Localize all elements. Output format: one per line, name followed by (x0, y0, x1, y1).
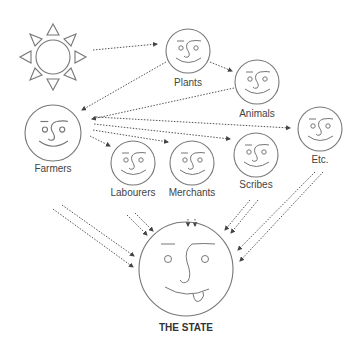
edge-labourers-state (127, 213, 153, 235)
node-labourers: Labourers (110, 141, 155, 198)
node-label: Farmers (34, 163, 71, 174)
state-diagram: Plants Animals Farmers Labourers Merchan… (0, 0, 360, 345)
node-label: Plants (174, 77, 202, 88)
node-label: THE STATE (159, 322, 213, 333)
edge-sun-plants (93, 44, 157, 50)
edge-plants-farmers (82, 62, 166, 110)
edge-farmers-merchants (93, 130, 168, 142)
node-animals: Animals (235, 60, 279, 119)
node-etc: Etc. (298, 107, 342, 165)
node-label: Merchants (169, 187, 216, 198)
node-state: THE STATE (139, 222, 233, 333)
node-merchants: Merchants (169, 141, 216, 198)
node-label: Scribes (239, 179, 272, 190)
edge-farmers-labourers (90, 136, 110, 146)
node-scribes: Scribes (234, 133, 278, 190)
edge-plants-animals (210, 62, 232, 71)
tongue-out-face-icon (139, 222, 233, 316)
node-farmers: Farmers (25, 105, 81, 174)
edge-scribes-state (225, 200, 258, 233)
node-label: Etc. (311, 154, 328, 165)
node-plants: Plants (166, 29, 210, 88)
node-label: Labourers (110, 187, 155, 198)
sun-icon (20, 24, 86, 90)
edge-farmers-scribes (94, 124, 230, 139)
node-label: Animals (239, 108, 275, 119)
edge-farmers-state (53, 205, 134, 267)
